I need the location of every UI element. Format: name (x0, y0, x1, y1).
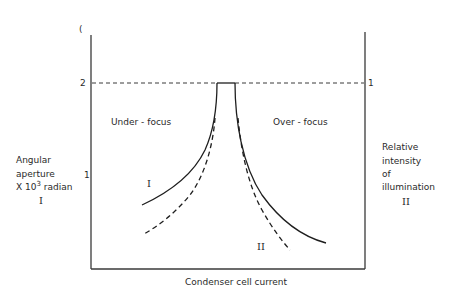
left-axis-scale: X 10 (16, 182, 37, 192)
curve-I-right (235, 83, 326, 243)
right-axis-label-line4: illumination (382, 182, 435, 192)
left-tick-1: 1 (84, 170, 90, 180)
curve-II-left (144, 118, 215, 234)
chart-figure: ( 2 1 1 Under - focus Over - focus I II … (0, 0, 452, 293)
plot-frame (91, 32, 365, 269)
over-focus-label: Over - focus (273, 117, 328, 127)
right-axis-label-line2: intensity (382, 156, 422, 166)
left-axis-label: Angular aperture X 103 radian I (16, 155, 72, 206)
left-axis-roman: I (39, 195, 43, 206)
x-axis-label: Condenser cell current (185, 277, 288, 287)
under-focus-label: Under - focus (111, 117, 172, 127)
left-axis-label-line2: aperture (16, 169, 55, 179)
right-axis-roman: II (402, 196, 410, 207)
curve-II-right (238, 118, 290, 250)
curve-II-label: II (257, 241, 265, 252)
left-axis-label-line1: Angular (16, 155, 51, 165)
left-axis-unit: radian (41, 182, 73, 192)
left-tick-2: 2 (80, 78, 86, 88)
right-axis-label: Relative intensity of illumination II (382, 142, 435, 207)
left-axis-label-line3: X 103 radian (16, 180, 72, 192)
curve-I-label: I (147, 178, 151, 189)
right-tick-1: 1 (368, 78, 374, 88)
stray-mark: ( (79, 24, 83, 34)
curve-I-left (142, 83, 217, 205)
right-axis-label-line3: of (382, 169, 392, 179)
right-axis-label-line1: Relative (382, 142, 419, 152)
